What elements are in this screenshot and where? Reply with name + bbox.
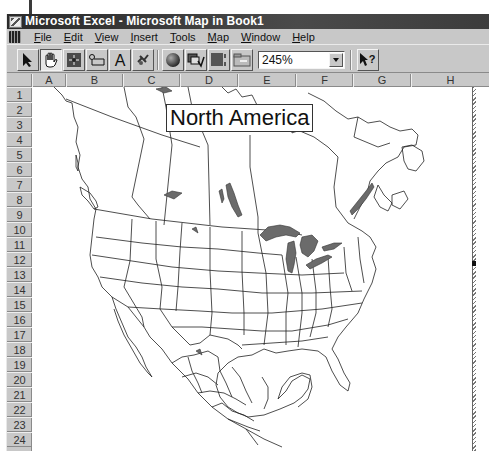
row-header[interactable]: 20 bbox=[7, 372, 32, 387]
map-object-frame-border[interactable] bbox=[472, 87, 476, 451]
map-refresh-button[interactable] bbox=[208, 49, 230, 71]
callout-pointer-line bbox=[29, 0, 32, 15]
column-header-f[interactable]: F bbox=[296, 74, 353, 87]
zoom-percentage-combo[interactable]: 245% bbox=[258, 51, 345, 69]
column-header-d[interactable]: D bbox=[180, 74, 238, 87]
menu-label-rest: ools bbox=[175, 31, 195, 43]
menu-edit[interactable]: Edit bbox=[58, 31, 89, 43]
menu-label-rest: ile bbox=[41, 31, 52, 43]
text-a-icon: A bbox=[112, 52, 128, 68]
context-help-icon: ? bbox=[359, 52, 377, 68]
menu-accel: M bbox=[208, 31, 217, 43]
menu-map[interactable]: Map bbox=[202, 31, 235, 43]
row-header[interactable]: 7 bbox=[7, 177, 32, 192]
svg-text:A: A bbox=[115, 52, 126, 68]
grabber-button[interactable] bbox=[40, 49, 62, 71]
row-header[interactable]: 23 bbox=[7, 417, 32, 432]
menu-tools[interactable]: Tools bbox=[164, 31, 202, 43]
arrow-pointer-icon bbox=[21, 52, 35, 68]
column-header-b[interactable]: B bbox=[66, 74, 123, 87]
column-header-a[interactable]: A bbox=[32, 74, 66, 87]
show-control-button[interactable] bbox=[231, 49, 253, 71]
map-labels-button[interactable] bbox=[86, 49, 108, 71]
display-entire-button[interactable] bbox=[162, 49, 184, 71]
custom-pin-map-button[interactable] bbox=[132, 49, 154, 71]
select-objects-button[interactable] bbox=[17, 49, 39, 71]
toolbar-separator bbox=[157, 50, 159, 70]
globe-icon bbox=[165, 52, 181, 68]
column-header-e[interactable]: E bbox=[238, 74, 296, 87]
window-title: Microsoft Excel - Microsoft Map in Book1 bbox=[25, 14, 264, 29]
menu-file[interactable]: File bbox=[28, 31, 58, 43]
row-header[interactable]: 21 bbox=[7, 387, 32, 402]
context-help-button[interactable]: ? bbox=[357, 49, 379, 71]
title-bar[interactable]: Microsoft Excel - Microsoft Map in Book1 bbox=[7, 14, 489, 29]
menu-view[interactable]: View bbox=[89, 31, 125, 43]
menu-accel: H bbox=[292, 31, 300, 43]
row-header[interactable]: 2 bbox=[7, 102, 32, 117]
excel-window: Microsoft Excel - Microsoft Map in Book1… bbox=[6, 14, 489, 451]
menu-bar: File Edit View Insert Tools Map Window H… bbox=[7, 29, 489, 44]
menu-accel: E bbox=[64, 31, 71, 43]
row-header[interactable]: 22 bbox=[7, 402, 32, 417]
map-document-icon[interactable] bbox=[8, 31, 22, 43]
row-header[interactable]: 19 bbox=[7, 357, 32, 372]
map-refresh-icon bbox=[210, 52, 228, 68]
select-all-corner[interactable] bbox=[7, 74, 32, 87]
map-toolbar: A 245% ? bbox=[7, 44, 489, 73]
add-text-button[interactable]: A bbox=[109, 49, 131, 71]
row-header[interactable]: 8 bbox=[7, 192, 32, 207]
toolbar-separator bbox=[350, 50, 352, 70]
svg-text:?: ? bbox=[369, 53, 376, 65]
menu-accel: F bbox=[34, 31, 41, 43]
redraw-map-icon bbox=[187, 52, 205, 68]
menu-label-rest: elp bbox=[300, 31, 315, 43]
row-header[interactable]: 17 bbox=[7, 327, 32, 342]
row-header[interactable]: 24 bbox=[7, 432, 32, 447]
center-map-icon bbox=[66, 52, 82, 68]
row-header[interactable]: 13 bbox=[7, 267, 32, 282]
row-header[interactable]: 11 bbox=[7, 237, 32, 252]
row-header[interactable]: 4 bbox=[7, 132, 32, 147]
map-labels-icon bbox=[88, 52, 106, 68]
menu-label-rest: ap bbox=[217, 31, 229, 43]
column-header-h[interactable]: H bbox=[411, 74, 489, 87]
row-header[interactable]: 5 bbox=[7, 147, 32, 162]
row-header[interactable]: 18 bbox=[7, 342, 32, 357]
menu-label-rest: dit bbox=[71, 31, 83, 43]
menu-label-rest: nsert bbox=[133, 31, 157, 43]
map-frame-resize-handle[interactable] bbox=[472, 261, 476, 266]
row-header[interactable]: 16 bbox=[7, 312, 32, 327]
excel-app-icon[interactable] bbox=[9, 16, 22, 28]
menu-insert[interactable]: Insert bbox=[124, 31, 164, 43]
show-control-icon bbox=[233, 52, 251, 68]
column-header-c[interactable]: C bbox=[123, 74, 180, 87]
column-headers: A B C D E F G H bbox=[32, 74, 489, 87]
menu-label-rest: iew bbox=[102, 31, 119, 43]
column-header-g[interactable]: G bbox=[353, 74, 411, 87]
row-header[interactable]: 12 bbox=[7, 252, 32, 267]
row-header[interactable]: 10 bbox=[7, 222, 32, 237]
menu-label-rest: indow bbox=[251, 31, 280, 43]
row-header[interactable]: 3 bbox=[7, 117, 32, 132]
row-header[interactable]: 15 bbox=[7, 297, 32, 312]
row-headers: 1 2 3 4 5 6 7 8 9 10 11 12 13 14 15 16 1… bbox=[7, 87, 32, 451]
redraw-map-button[interactable] bbox=[185, 49, 207, 71]
pushpin-icon bbox=[135, 52, 151, 68]
map-outline-drawing bbox=[32, 87, 477, 451]
row-header[interactable]: 1 bbox=[7, 87, 32, 102]
north-america-map[interactable]: North America bbox=[32, 87, 477, 451]
menu-accel: W bbox=[241, 31, 251, 43]
menu-help[interactable]: Help bbox=[286, 31, 321, 43]
map-title-label[interactable]: North America bbox=[166, 104, 313, 132]
center-map-button[interactable] bbox=[63, 49, 85, 71]
row-header[interactable]: 9 bbox=[7, 207, 32, 222]
row-header[interactable]: 6 bbox=[7, 162, 32, 177]
worksheet-grid: A B C D E F G H 1 2 3 4 5 6 7 8 9 10 11 … bbox=[7, 74, 489, 451]
hand-grabber-icon bbox=[42, 52, 60, 68]
zoom-value: 245% bbox=[262, 53, 293, 67]
menu-window[interactable]: Window bbox=[235, 31, 286, 43]
menu-accel: V bbox=[95, 31, 102, 43]
row-header[interactable]: 14 bbox=[7, 282, 32, 297]
chevron-down-icon[interactable] bbox=[329, 53, 343, 67]
